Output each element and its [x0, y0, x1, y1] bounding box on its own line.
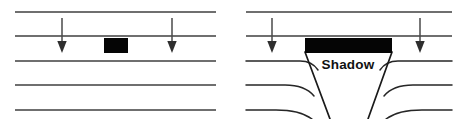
wavefront-line-5-left — [246, 110, 312, 119]
large-obstacle — [305, 38, 392, 53]
wavefront-line-5-right — [386, 110, 452, 119]
left-panel-wavefronts — [15, 12, 216, 110]
wavefront-line-4-left — [246, 85, 314, 96]
shadow-label: Shadow — [322, 57, 375, 72]
wavefront-line-3-left — [246, 61, 318, 70]
right-panel-wavefronts-straight — [246, 12, 452, 36]
wavefront-line-3-right — [380, 61, 452, 70]
small-obstacle — [104, 38, 128, 53]
down-arrow-icon — [267, 41, 276, 53]
figure-canvas: Shadow — [0, 0, 466, 119]
left-panel — [15, 12, 216, 110]
down-arrow-icon — [57, 41, 66, 53]
wave-shadow-figure: Shadow — [0, 0, 466, 119]
down-arrow-icon — [167, 41, 176, 53]
wavefront-line-4-right — [384, 85, 452, 96]
right-panel: Shadow — [246, 12, 452, 119]
down-arrow-icon — [415, 41, 424, 53]
